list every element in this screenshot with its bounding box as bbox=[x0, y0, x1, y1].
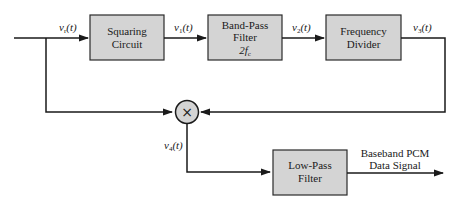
signal-v4-label: v4(t) bbox=[164, 139, 183, 153]
signal-v1-label: v1(t) bbox=[174, 21, 193, 35]
bandpass-label-2: Filter bbox=[233, 31, 257, 43]
signal-v2-label: v2(t) bbox=[292, 21, 311, 35]
multiply-icon: × bbox=[181, 104, 193, 120]
lowpass-label-1: Low-Pass bbox=[288, 159, 331, 171]
divider-label-1: Frequency bbox=[340, 25, 387, 37]
multiplier-node: × bbox=[176, 101, 199, 124]
squaring-circuit-block: Squaring Circuit bbox=[90, 15, 164, 60]
squaring-label-2: Circuit bbox=[112, 38, 143, 50]
lowpass-label-2: Filter bbox=[298, 172, 322, 184]
squaring-label-1: Squaring bbox=[107, 25, 147, 37]
bandpass-label-1: Band-Pass bbox=[222, 19, 268, 31]
signal-vr-label: vr(t) bbox=[59, 21, 77, 35]
band-pass-filter-block: Band-Pass Filter 2fc bbox=[208, 15, 282, 60]
frequency-divider-block: Frequency Divider bbox=[326, 15, 401, 60]
output-label-1: Baseband PCM bbox=[361, 147, 430, 159]
output-label-2: Data Signal bbox=[369, 159, 421, 171]
divider-label-2: Divider bbox=[347, 38, 381, 50]
low-pass-filter-block: Low-Pass Filter bbox=[273, 150, 347, 195]
v4-line bbox=[187, 124, 270, 173]
pcm-sync-diagram: Squaring Circuit vr(t) v1(t) Band-Pass F… bbox=[0, 0, 456, 206]
signal-v3-label: v3(t) bbox=[413, 21, 432, 35]
